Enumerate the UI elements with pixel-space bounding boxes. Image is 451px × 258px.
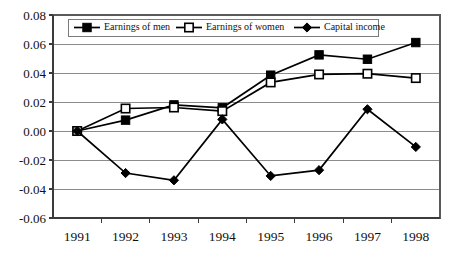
data-point-marker [266, 78, 274, 86]
y-tick-label: 0.00 [23, 124, 46, 139]
y-tick-label: -0.04 [19, 182, 47, 197]
y-tick-label: 0.08 [23, 8, 46, 23]
data-point-marker [363, 55, 371, 63]
x-tick-label: 1991 [64, 229, 91, 244]
chart-container: 0.080.060.040.020.00-0.02-0.04-0.06 1991… [0, 0, 451, 258]
data-point-marker [315, 51, 323, 59]
legend-label: Capital income [324, 21, 385, 32]
data-point-marker [121, 104, 129, 112]
data-point-marker [315, 70, 323, 78]
x-tick-label: 1994 [209, 229, 236, 244]
data-point-marker [218, 107, 226, 115]
legend-label: Earnings of men [104, 21, 170, 32]
x-axis-tick-marks [101, 218, 391, 223]
y-tick-label: 0.06 [23, 37, 46, 52]
x-tick-label: 1997 [354, 229, 381, 244]
legend-marker [185, 23, 193, 31]
x-axis-tick-labels: 19911992199319941995199619971998 [64, 229, 430, 244]
x-tick-label: 1993 [160, 229, 187, 244]
y-axis-tick-labels: 0.080.060.040.020.00-0.02-0.04-0.06 [19, 8, 47, 226]
y-tick-label: 0.04 [23, 66, 46, 81]
x-tick-label: 1998 [402, 229, 429, 244]
y-tick-label: 0.02 [23, 95, 46, 110]
data-point-marker [363, 70, 371, 78]
legend-label: Earnings of women [206, 21, 284, 32]
y-tick-label: -0.06 [19, 211, 47, 226]
legend-marker [83, 23, 91, 31]
plot-background [53, 15, 440, 218]
data-point-marker [412, 74, 420, 82]
chart-legend: Earnings of menEarnings of womenCapital … [68, 19, 385, 36]
y-tick-label: -0.02 [19, 153, 46, 168]
data-point-marker [170, 103, 178, 111]
data-point-marker [121, 116, 129, 124]
x-tick-label: 1996 [306, 229, 333, 244]
x-tick-label: 1995 [257, 229, 284, 244]
x-tick-label: 1992 [112, 229, 139, 244]
data-point-marker [412, 38, 420, 46]
line-chart: 0.080.060.040.020.00-0.02-0.04-0.06 1991… [0, 0, 451, 258]
